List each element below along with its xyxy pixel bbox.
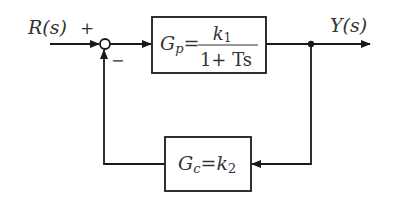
input-label: R(s)	[27, 16, 67, 38]
block-diagram: R(s) + − Gp= k1 1+ Ts Y(s) Gc=k2	[0, 0, 395, 200]
summing-junction	[100, 39, 110, 49]
gc-expression: Gc=k2	[178, 152, 236, 176]
minus-sign: −	[111, 51, 124, 70]
plus-sign: +	[80, 18, 94, 38]
output-label: Y(s)	[330, 14, 367, 36]
gp-denominator: 1+ Ts	[200, 49, 252, 70]
